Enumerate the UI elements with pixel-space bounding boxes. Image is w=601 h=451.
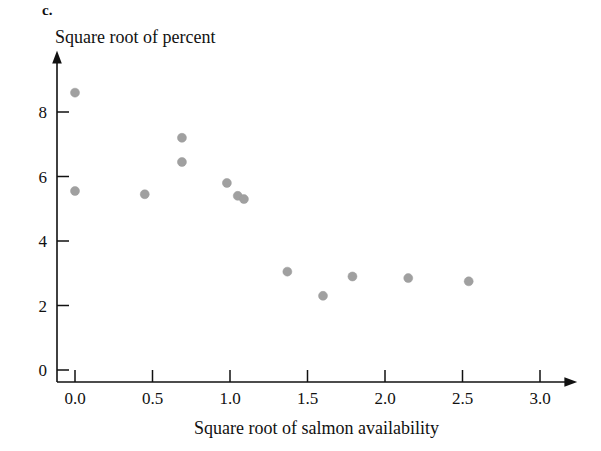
data-point	[404, 274, 413, 283]
x-tick-label: 3.0	[529, 389, 550, 408]
data-point	[348, 272, 357, 281]
data-point	[177, 157, 186, 166]
y-axis-ticks: 02468	[39, 103, 70, 380]
x-tick-label: 2.5	[452, 389, 473, 408]
x-tick-label: 1.0	[219, 389, 240, 408]
y-tick-label: 0	[39, 361, 48, 380]
y-tick-label: 2	[39, 297, 48, 316]
scatter-plot: 02468 0.00.51.01.52.02.53.0	[0, 0, 601, 451]
data-point	[239, 195, 248, 204]
x-tick-label: 1.5	[297, 389, 318, 408]
x-tick-label: 0.5	[142, 389, 163, 408]
x-tick-label: 0.0	[64, 389, 85, 408]
data-point	[71, 88, 80, 97]
y-tick-label: 6	[39, 168, 48, 187]
data-point	[177, 133, 186, 142]
y-tick-label: 4	[39, 232, 48, 251]
data-point	[222, 178, 231, 187]
data-point	[319, 291, 328, 300]
x-tick-label: 2.0	[374, 389, 395, 408]
data-point	[71, 187, 80, 196]
x-axis-ticks: 0.00.51.01.52.02.53.0	[64, 370, 550, 408]
data-point	[140, 190, 149, 199]
data-point	[283, 267, 292, 276]
x-axis-title: Square root of salmon availability	[0, 418, 601, 439]
data-point	[464, 277, 473, 286]
data-points-group	[71, 88, 474, 300]
y-tick-label: 8	[39, 103, 48, 122]
figure-panel-c: c. Square root of percent 02468 0.00.51.…	[0, 0, 601, 451]
